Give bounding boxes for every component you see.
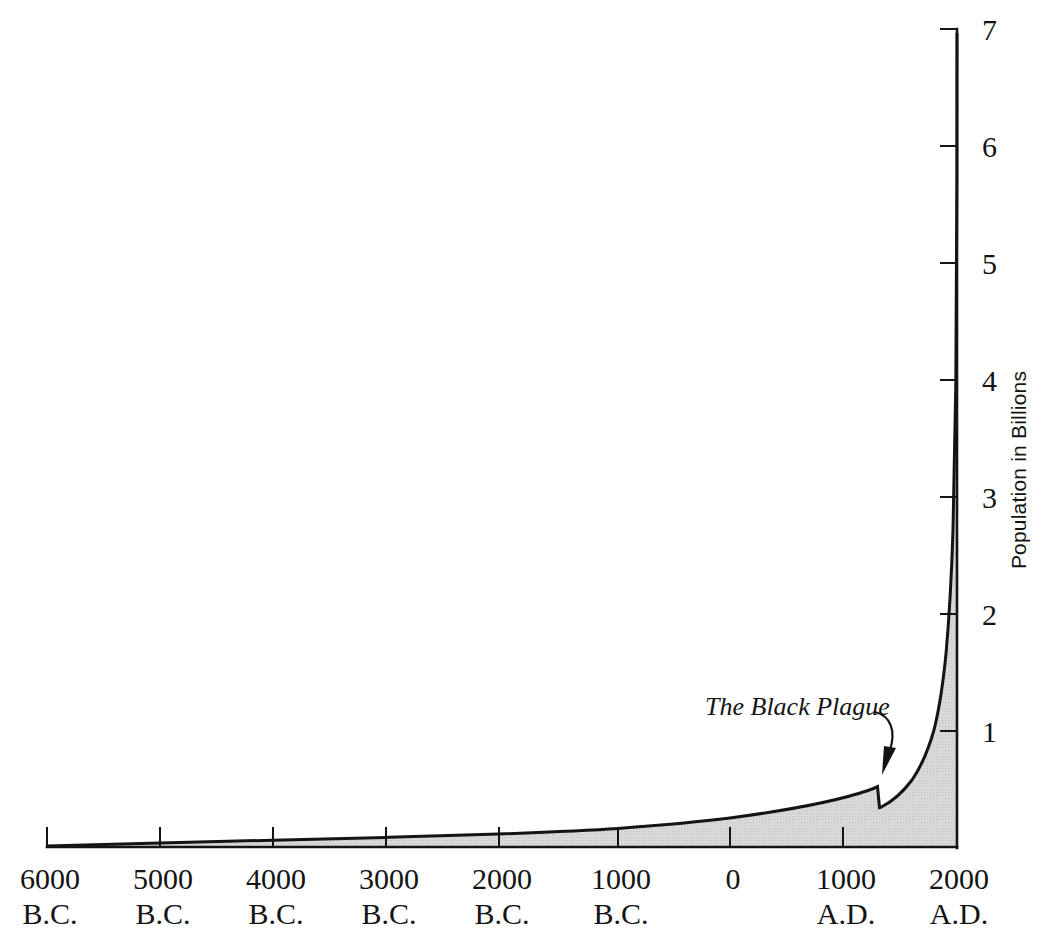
world-population-area-chart: 7 6 5 4 3 2 1 Population in Billions 600… xyxy=(0,0,1054,937)
x-tick-label-5000bc-era: B.C. xyxy=(135,897,190,930)
x-tick-label-4000bc-era: B.C. xyxy=(248,897,303,930)
x-tick-label-6000bc-year: 6000 xyxy=(20,862,80,895)
x-tick-label-1000bc-year: 1000 xyxy=(591,862,651,895)
y-tick-label-6: 6 xyxy=(982,130,997,163)
y-tick-label-1: 1 xyxy=(982,715,997,748)
x-tick-label-3000bc-era: B.C. xyxy=(361,897,416,930)
x-tick-label-4000bc-year: 4000 xyxy=(246,862,306,895)
y-tick-label-4: 4 xyxy=(982,364,997,397)
y-tick-label-3: 3 xyxy=(982,481,997,514)
y-tick-label-5: 5 xyxy=(982,247,997,280)
x-tick-label-3000bc-year: 3000 xyxy=(359,862,419,895)
black-plague-annotation-label: The Black Plague xyxy=(705,692,890,721)
y-axis-title: Population in Billions xyxy=(1007,371,1030,569)
y-tick-label-2: 2 xyxy=(982,598,997,631)
x-tick-label-1000bc-era: B.C. xyxy=(593,897,648,930)
x-tick-label-1000ad-year: 1000 xyxy=(816,862,876,895)
x-tick-label-0-year: 0 xyxy=(726,862,741,895)
x-tick-label-6000bc-era: B.C. xyxy=(22,897,77,930)
y-tick-label-7: 7 xyxy=(982,13,997,46)
x-tick-label-1000ad-era: A.D. xyxy=(817,897,875,930)
x-tick-label-2000bc-era: B.C. xyxy=(474,897,529,930)
x-tick-label-2000bc-year: 2000 xyxy=(472,862,532,895)
chart-container: 7 6 5 4 3 2 1 Population in Billions 600… xyxy=(0,0,1054,937)
x-tick-label-2000ad-era: A.D. xyxy=(930,897,988,930)
x-tick-label-2000ad-year: 2000 xyxy=(929,862,989,895)
x-tick-label-5000bc-year: 5000 xyxy=(133,862,193,895)
